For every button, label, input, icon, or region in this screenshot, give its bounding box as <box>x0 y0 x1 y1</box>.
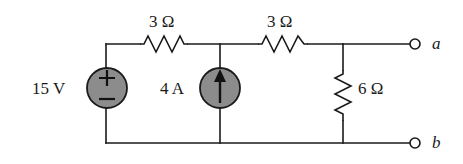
resistor-r2-symbol <box>258 36 308 52</box>
current-source-symbol <box>200 68 240 108</box>
resistor-r1-label: 3 Ω <box>149 13 174 30</box>
terminal-a-node[interactable] <box>410 39 420 49</box>
circuit-diagram: 3 Ω 3 Ω 6 Ω 15 V 4 A a b <box>0 0 463 164</box>
terminal-b-node[interactable] <box>410 138 420 148</box>
resistor-r3-label: 6 Ω <box>358 80 383 97</box>
terminal-a-label: a <box>432 35 441 52</box>
voltage-source-symbol <box>87 68 127 108</box>
voltage-source-label: 15 V <box>32 80 65 97</box>
resistor-r3-symbol <box>335 70 351 121</box>
resistor-r2-label: 3 Ω <box>267 13 292 30</box>
circuit-schematic-canvas <box>0 0 463 164</box>
current-source-label: 4 A <box>160 80 184 97</box>
terminal-b-label: b <box>432 134 441 151</box>
resistor-r1-symbol <box>140 36 188 52</box>
